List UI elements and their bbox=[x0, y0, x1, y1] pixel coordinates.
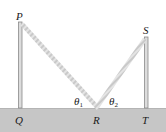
theta2-subscript: 2 bbox=[114, 101, 118, 109]
angle-theta2: θ2 bbox=[109, 96, 118, 109]
angle-theta1: θ1 bbox=[74, 96, 83, 109]
label-Q: Q bbox=[15, 115, 23, 126]
label-R: R bbox=[93, 115, 100, 126]
right-pole bbox=[145, 37, 149, 108]
label-P: P bbox=[16, 11, 23, 22]
label-S: S bbox=[143, 25, 149, 36]
left-pole bbox=[19, 22, 23, 108]
theta1-subscript: 1 bbox=[79, 101, 83, 109]
diagram-canvas bbox=[0, 0, 166, 132]
label-T: T bbox=[142, 115, 148, 126]
rope bbox=[22, 24, 145, 107]
